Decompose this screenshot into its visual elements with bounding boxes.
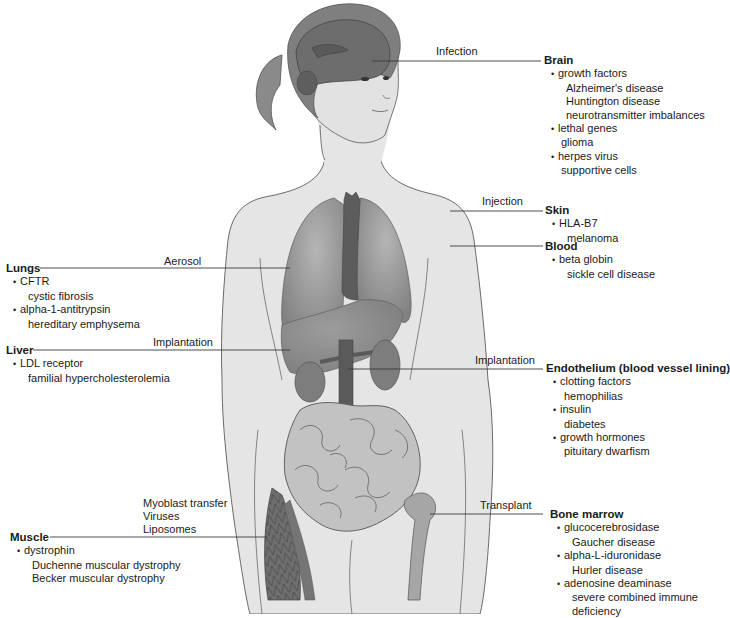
disease: cystic fibrosis xyxy=(6,290,140,303)
organ-name: Skin xyxy=(545,204,618,217)
gene: alpha-1-antitrypsin xyxy=(6,303,140,317)
route-implantation-endothelium: Implantation xyxy=(475,354,535,367)
target-blood: Blood beta globin sickle cell disease xyxy=(545,240,655,281)
left-kidney xyxy=(370,340,400,390)
gene: growth factors xyxy=(544,67,705,81)
route-myoblast-transfer: Myoblast transfer xyxy=(143,497,227,510)
gene: LDL receptor xyxy=(6,357,170,371)
heart xyxy=(342,192,360,300)
disease: diabetes xyxy=(546,418,730,431)
gene: beta globin xyxy=(545,253,655,267)
organ-name: Brain xyxy=(544,54,705,67)
target-lungs: Lungs CFTR cystic fibrosis alpha-1-antit… xyxy=(6,262,140,331)
organ-name: Blood xyxy=(545,240,655,253)
target-brain: Brain growth factors Alzheimer's disease… xyxy=(544,54,705,178)
gene: alpha-L-iduronidase xyxy=(550,549,698,563)
route-aerosol: Aerosol xyxy=(164,255,201,268)
gene: glucocerebrosidase xyxy=(550,521,698,535)
disease: Becker muscular dystrophy xyxy=(10,572,181,585)
disease: Hurler disease xyxy=(550,564,698,577)
target-liver: Liver LDL receptor familial hypercholest… xyxy=(6,344,170,385)
disease: glioma xyxy=(544,136,705,149)
gene: HLA-B7 xyxy=(545,217,618,231)
disease: Gaucher disease xyxy=(550,536,698,549)
disease: severe combined immune xyxy=(550,591,698,604)
target-muscle: Muscle dystrophin Duchenne muscular dyst… xyxy=(10,531,181,586)
disease: supportive cells xyxy=(544,164,705,177)
gene: adenosine deaminase xyxy=(550,577,698,591)
gene: clotting factors xyxy=(546,375,730,389)
disease: neurotransmitter imbalances xyxy=(544,109,705,122)
route-transplant: Transplant xyxy=(480,499,532,512)
hair-ponytail xyxy=(256,55,282,130)
gene: insulin xyxy=(546,403,730,417)
gene: CFTR xyxy=(6,275,140,289)
disease: hemophilias xyxy=(546,390,730,403)
organ-name: Endothelium (blood vessel lining) xyxy=(546,362,730,375)
disease: Duchenne muscular dystrophy xyxy=(10,559,181,572)
disease: familial hypercholesterolemia xyxy=(6,372,170,385)
organ-name: Liver xyxy=(6,344,170,357)
gene: herpes virus xyxy=(544,150,705,164)
target-bone-marrow: Bone marrow glucocerebrosidase Gaucher d… xyxy=(550,508,698,618)
organ-name: Lungs xyxy=(6,262,140,275)
organ-name: Muscle xyxy=(10,531,181,544)
disease: Alzheimer's disease xyxy=(544,82,705,95)
route-injection: Injection xyxy=(482,195,523,208)
route-viruses: Viruses xyxy=(143,510,227,523)
route-infection: Infection xyxy=(436,45,478,58)
disease: hereditary emphysema xyxy=(6,318,140,331)
gene: lethal genes xyxy=(544,122,705,136)
disease: deficiency xyxy=(550,605,698,618)
disease: Huntington disease xyxy=(544,95,705,108)
gene: growth hormones xyxy=(546,431,730,445)
disease: pituitary dwarfism xyxy=(546,445,730,458)
right-kidney xyxy=(295,362,325,402)
target-endothelium: Endothelium (blood vessel lining) clotti… xyxy=(546,362,730,459)
gene: dystrophin xyxy=(10,544,181,558)
disease: sickle cell disease xyxy=(545,268,655,281)
organ-name: Bone marrow xyxy=(550,508,698,521)
